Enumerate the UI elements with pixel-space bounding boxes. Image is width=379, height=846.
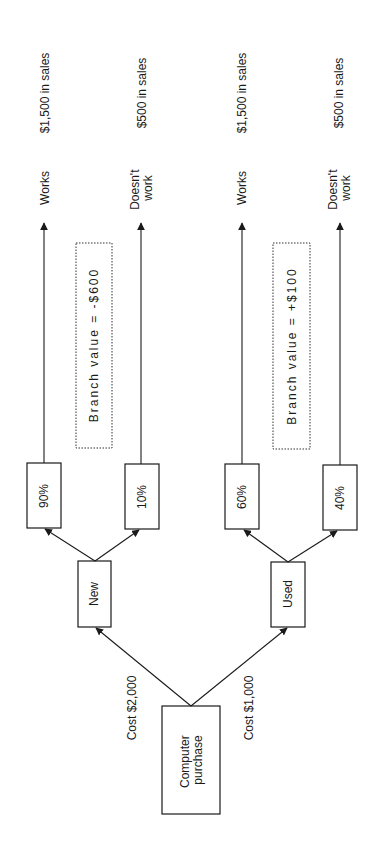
edge-used-60 xyxy=(244,530,288,562)
result-line-1: Doesn't xyxy=(326,169,340,210)
root-label-line-1: Computer xyxy=(178,735,192,788)
branch-value-label: Branch value = +$100 xyxy=(285,267,299,424)
branch-label-new: New xyxy=(87,582,101,606)
edge-root-used xyxy=(191,628,287,706)
probability-label: 10% xyxy=(135,485,149,509)
root-node: Computer purchase xyxy=(162,706,220,814)
edge-root-new xyxy=(96,628,191,706)
branch-value-new: Branch value = -$600 xyxy=(76,243,112,448)
cost-label-used: Cost $1,000 xyxy=(242,675,256,740)
root-label-line-2: purchase xyxy=(191,735,205,785)
payoff-label-used-works: $1,500 in sales xyxy=(235,53,249,134)
probability-node-new-works: 90% xyxy=(27,463,61,528)
result-line-2: work xyxy=(339,174,353,201)
result-line-1: Doesn't xyxy=(128,169,142,210)
cost-label-new: Cost $2,000 xyxy=(125,675,139,740)
branch-value-used: Branch value = +$100 xyxy=(273,243,310,449)
edge-new-90 xyxy=(45,529,95,561)
result-label-used-fails: Doesn't work xyxy=(326,166,353,210)
decision-tree: Computer purchase Cost $2,000 Cost $1,00… xyxy=(0,0,379,846)
probability-label: 90% xyxy=(37,484,51,508)
result-line-2: work xyxy=(141,174,155,201)
branch-value-label: Branch value = -$600 xyxy=(87,268,101,422)
result-label-new-works: Works xyxy=(38,171,52,205)
result-label-new-fails: Doesn't work xyxy=(128,166,155,210)
edge-new-10 xyxy=(95,530,139,561)
payoff-label-used-fails: $500 in sales xyxy=(332,58,346,129)
edge-used-40 xyxy=(288,531,337,562)
probability-node-new-fails: 10% xyxy=(125,464,159,529)
payoff-label-new-fails: $500 in sales xyxy=(135,58,149,129)
branch-label-used: Used xyxy=(281,580,295,608)
probability-label: 60% xyxy=(235,485,249,509)
probability-node-used-fails: 40% xyxy=(323,465,357,530)
payoff-label-new-works: $1,500 in sales xyxy=(38,53,52,134)
probability-node-used-works: 60% xyxy=(225,464,259,529)
result-label-used-works: Works xyxy=(235,171,249,205)
branch-node-used: Used xyxy=(271,562,305,627)
root-label: Computer purchase xyxy=(178,732,205,788)
probability-label: 40% xyxy=(333,486,347,510)
branch-node-new: New xyxy=(78,561,111,627)
